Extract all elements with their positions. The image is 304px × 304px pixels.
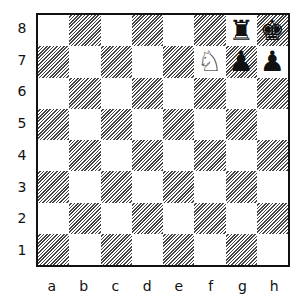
square-e1: [163, 234, 194, 265]
square-h8: ♚: [257, 15, 288, 46]
square-d1: [132, 234, 163, 265]
square-c2: [101, 203, 132, 234]
square-g4: [226, 140, 257, 171]
square-e3: [163, 171, 194, 202]
square-d3: [132, 171, 163, 202]
file-label-a: a: [42, 278, 62, 294]
square-d2: [132, 203, 163, 234]
square-d8: [132, 15, 163, 46]
chess-board: ♜♚♘♟♟: [36, 13, 290, 267]
square-c7: [101, 46, 132, 77]
square-f6: [194, 78, 225, 109]
square-c5: [101, 109, 132, 140]
file-label-c: c: [105, 278, 125, 294]
square-b5: [69, 109, 100, 140]
square-g5: [226, 109, 257, 140]
square-d5: [132, 109, 163, 140]
square-e2: [163, 203, 194, 234]
square-f5: [194, 109, 225, 140]
black-king-icon: ♚: [260, 17, 285, 45]
white-knight-icon: ♘: [197, 48, 222, 76]
file-label-h: h: [264, 278, 284, 294]
square-f3: [194, 171, 225, 202]
square-g6: [226, 78, 257, 109]
square-f7: ♘: [194, 46, 225, 77]
square-a1: [38, 234, 69, 265]
square-c8: [101, 15, 132, 46]
square-h6: [257, 78, 288, 109]
square-a3: [38, 171, 69, 202]
square-e6: [163, 78, 194, 109]
square-d4: [132, 140, 163, 171]
square-b7: [69, 46, 100, 77]
file-label-e: e: [169, 278, 189, 294]
file-label-f: f: [201, 278, 221, 294]
square-h5: [257, 109, 288, 140]
square-f2: [194, 203, 225, 234]
square-b8: [69, 15, 100, 46]
file-label-g: g: [232, 278, 252, 294]
square-e5: [163, 109, 194, 140]
square-h4: [257, 140, 288, 171]
square-g2: [226, 203, 257, 234]
square-c6: [101, 78, 132, 109]
rank-label-2: 2: [14, 210, 30, 226]
black-pawn-icon: ♟: [229, 48, 254, 76]
square-a5: [38, 109, 69, 140]
square-a7: [38, 46, 69, 77]
square-g8: ♜: [226, 15, 257, 46]
file-label-d: d: [137, 278, 157, 294]
square-c3: [101, 171, 132, 202]
square-c1: [101, 234, 132, 265]
square-h7: ♟: [257, 46, 288, 77]
square-h3: [257, 171, 288, 202]
square-g1: [226, 234, 257, 265]
square-d7: [132, 46, 163, 77]
file-label-b: b: [74, 278, 94, 294]
square-b1: [69, 234, 100, 265]
square-f4: [194, 140, 225, 171]
square-a4: [38, 140, 69, 171]
rank-label-4: 4: [14, 147, 30, 163]
square-b2: [69, 203, 100, 234]
square-g3: [226, 171, 257, 202]
rank-label-3: 3: [14, 179, 30, 195]
square-f8: [194, 15, 225, 46]
square-b6: [69, 78, 100, 109]
square-e7: [163, 46, 194, 77]
square-b3: [69, 171, 100, 202]
square-e8: [163, 15, 194, 46]
square-c4: [101, 140, 132, 171]
square-a6: [38, 78, 69, 109]
square-h2: [257, 203, 288, 234]
rank-label-6: 6: [14, 83, 30, 99]
rank-label-1: 1: [14, 242, 30, 258]
rank-label-8: 8: [14, 20, 30, 36]
square-e4: [163, 140, 194, 171]
black-rook-icon: ♜: [229, 17, 254, 45]
square-d6: [132, 78, 163, 109]
square-a2: [38, 203, 69, 234]
square-h1: [257, 234, 288, 265]
black-pawn-icon: ♟: [260, 48, 285, 76]
rank-label-5: 5: [14, 115, 30, 131]
square-g7: ♟: [226, 46, 257, 77]
square-f1: [194, 234, 225, 265]
square-b4: [69, 140, 100, 171]
square-a8: [38, 15, 69, 46]
rank-label-7: 7: [14, 52, 30, 68]
